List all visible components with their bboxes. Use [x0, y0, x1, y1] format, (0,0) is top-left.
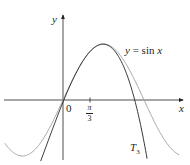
origin-label: 0	[66, 103, 72, 114]
sin-curve-label: y = sin x	[125, 45, 162, 56]
y-axis-label: y	[52, 14, 57, 25]
t3-label-sub: 3	[136, 148, 140, 156]
tick-numerator: π	[87, 104, 91, 112]
sin-label-x: x	[157, 44, 162, 56]
tick-denominator: 3	[88, 115, 92, 123]
sin-label-eq: = sin	[130, 44, 157, 56]
x-tick-label-pi-over-3: π 3	[86, 104, 93, 123]
x-axis-label: x	[179, 103, 184, 114]
plot-area	[0, 0, 190, 165]
t3-curve-label: T3	[130, 142, 140, 156]
